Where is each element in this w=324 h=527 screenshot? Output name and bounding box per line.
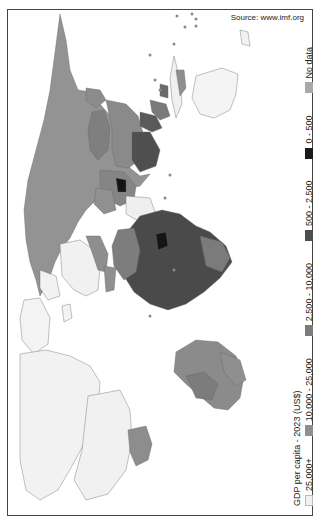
legend-item-0-500: 0 - 500 [304, 116, 314, 159]
swatch-10000-25000 [305, 425, 313, 436]
region-mexico [128, 426, 152, 466]
legend-item-25000-plus: 25,000+ [304, 458, 314, 506]
region-greenland [20, 298, 50, 354]
region-south-asia [132, 132, 160, 172]
legend-item-10000-25000: 10,000 - 25,000 [304, 358, 314, 436]
legend-item-2500-10000: 2,500 - 10,000 [304, 263, 314, 336]
region-australia [192, 68, 238, 118]
swatch-no-data [305, 83, 313, 94]
region-new-zealand [240, 30, 250, 46]
legend-title: GDP per capita - 2023 (US$) [292, 20, 303, 510]
region-africa-north [112, 228, 140, 280]
legend-row: 25,000+ 10,000 - 25,000 2,500 - 10,000 5… [303, 20, 314, 510]
swatch-0-500 [305, 148, 313, 159]
region-balkans [104, 266, 116, 292]
region-scandinavia [40, 270, 60, 300]
region-philippines [160, 84, 168, 98]
legend-item-500-2500: 500 - 2,500 [304, 181, 314, 242]
world-map [0, 0, 324, 527]
region-uk [62, 304, 72, 322]
swatch-25000-plus [305, 495, 313, 506]
swatch-500-2500 [305, 230, 313, 241]
legend: GDP per capita - 2023 (US$) 25,000+ 10,0… [292, 20, 314, 510]
legend-item-no-data: No data [304, 47, 314, 94]
region-afghan-dark [116, 178, 126, 192]
swatch-2500-10000 [305, 325, 313, 336]
